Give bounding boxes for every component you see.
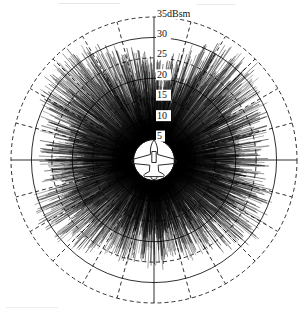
polar-plot-canvas: 5101520253035dBsm — [0, 0, 302, 314]
radial-tick-label-35: 35dBsm — [157, 8, 191, 19]
radial-tick-label-30: 30 — [157, 28, 167, 39]
polar-rcs-chart: 5101520253035dBsm — [0, 0, 302, 314]
radial-tick-label-15: 15 — [157, 89, 167, 100]
radial-tick-label-10: 10 — [157, 110, 167, 121]
radial-tick-label-20: 20 — [157, 69, 167, 80]
radial-tick-label-5: 5 — [157, 130, 162, 141]
inner-blank-disc — [134, 140, 173, 179]
radial-tick-label-25: 25 — [157, 48, 167, 59]
rcs-data-traces — [34, 43, 272, 270]
